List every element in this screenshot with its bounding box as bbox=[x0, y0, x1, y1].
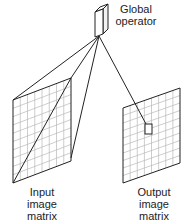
output-pixel bbox=[145, 124, 152, 134]
output-image-matrix bbox=[123, 88, 180, 183]
global-operator-label: Global operator bbox=[112, 3, 160, 27]
output-image-matrix-label: Output image matrix bbox=[124, 186, 184, 222]
input-image-matrix-label: Input image matrix bbox=[12, 186, 72, 222]
global-operator-block bbox=[95, 4, 108, 37]
projection-lines bbox=[13, 36, 146, 183]
